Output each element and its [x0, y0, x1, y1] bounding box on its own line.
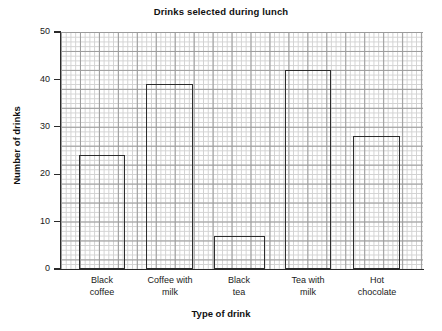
x-category-label-tea-with-milk: Tea with milk: [269, 275, 347, 298]
x-category-line-1: Coffee with: [129, 275, 211, 287]
y-tick-label-0: 0: [16, 263, 50, 273]
x-category-label-black-tea: Black tea: [200, 275, 278, 298]
y-tick-mark-50: [54, 31, 61, 32]
chart-title: Drinks selected during lunch: [0, 6, 442, 17]
x-category-line-2: milk: [269, 287, 347, 299]
x-category-line-2: chocolate: [338, 287, 416, 299]
x-category-line-2: milk: [129, 287, 211, 299]
x-category-line-1: Black: [200, 275, 278, 287]
x-category-label-hot-chocolate: Hot chocolate: [338, 275, 416, 298]
y-tick-mark-10: [54, 221, 61, 222]
y-tick-mark-30: [54, 126, 61, 127]
x-category-line-2: tea: [200, 287, 278, 299]
x-category-label-coffee-with-milk: Coffee with milk: [129, 275, 211, 298]
y-tick-label-10: 10: [16, 216, 50, 226]
y-tick-mark-20: [54, 174, 61, 175]
x-axis-line: [60, 269, 424, 270]
y-axis-line: [60, 31, 61, 270]
bar-chart-figure: Drinks selected during lunch 50 40 30 20…: [0, 0, 442, 331]
x-axis-title: Type of drink: [0, 308, 442, 319]
bar-black-tea: [214, 236, 265, 269]
y-axis-title: Number of drinks: [11, 81, 22, 211]
y-tick-mark-0: [54, 268, 61, 269]
x-category-line-1: Hot: [338, 275, 416, 287]
x-category-line-1: Tea with: [269, 275, 347, 287]
y-tick-mark-40: [54, 79, 61, 80]
bar-hot-chocolate: [353, 136, 401, 269]
bar-coffee-with-milk: [146, 84, 193, 269]
bar-tea-with-milk: [285, 70, 331, 269]
bar-black-coffee: [79, 155, 126, 269]
y-tick-label-50: 50: [16, 26, 50, 36]
